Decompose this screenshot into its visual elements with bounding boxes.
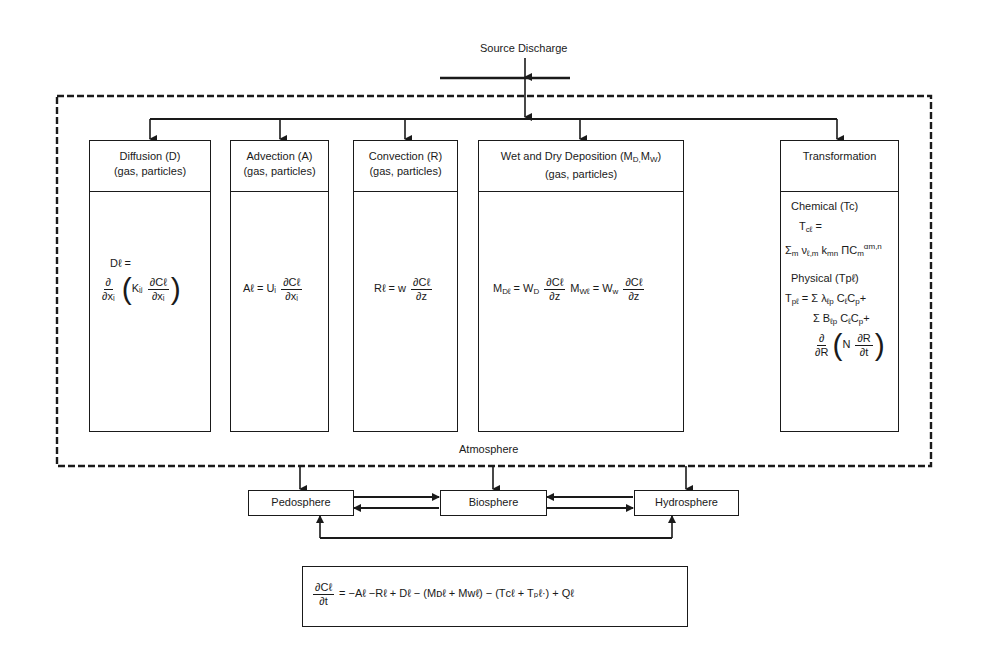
source-discharge-label: Source Discharge [480,42,567,54]
process-box-transformation: Transformation Chemical (Tc) Tcℓ = Σm νℓ… [780,140,899,432]
process-box-convection: Convection (R) (gas, particles) Rℓ = w ∂… [353,140,458,432]
physical-line-1: Tpℓ = Σ λℓp CℓCp+ [785,292,866,306]
process-title: Wet and Dry Deposition (MD,MW) [479,149,683,167]
process-box-advection: Advection (A) (gas, particles) Aℓ = Uᵢ ∂… [230,140,329,432]
process-title: Diffusion (D) [90,149,210,164]
process-title: Advection (A) [231,149,328,164]
fraction-denominator: ∂z [626,290,641,303]
process-title: Transformation [781,149,898,164]
process-header: Advection (A) (gas, particles) [231,141,328,192]
chemical-lhs: Tcℓ = [799,220,822,234]
chemical-rhs: Σm νℓ,m kmn ΠCmαm,n [785,242,882,258]
process-box-deposition: Wet and Dry Deposition (MD,MW) (gas, par… [478,140,684,432]
process-subtitle: (gas, particles) [354,164,457,179]
atmosphere-label: Atmosphere [459,443,518,455]
fraction-numerator: ∂Cℓ [148,276,169,290]
physical-line-3: ∂∂R(N ∂R∂t) [811,330,885,360]
fraction-denominator: ∂xᵢ [100,290,117,303]
fraction-numerator: ∂Cℓ [623,276,644,290]
process-header: Wet and Dry Deposition (MD,MW) (gas, par… [479,141,683,192]
fraction-numerator: ∂Cℓ [313,581,334,595]
sphere-box-biosphere: Biosphere [440,490,547,516]
sphere-box-pedosphere: Pedosphere [248,490,354,516]
process-subtitle: (gas, particles) [90,164,210,179]
process-box-diffusion: Diffusion (D) (gas, particles) Dℓ = ∂∂xᵢ… [89,140,211,432]
process-header: Diffusion (D) (gas, particles) [90,141,210,192]
fraction-numerator: ∂Cℓ [281,276,302,290]
process-subtitle: (gas, particles) [231,164,328,179]
chemical-label: Chemical (Tc) [791,200,858,212]
fraction-numerator: ∂Cℓ [544,276,565,290]
physical-label: Physical (Tpℓ) [791,272,859,284]
process-equation: Rℓ = w ∂Cℓ∂z [354,192,457,431]
process-header: Transformation [781,141,898,192]
physical-line-2: Σ Bℓp CℓCp+ [813,312,870,326]
process-title: Convection (R) [354,149,457,164]
process-subtitle: (gas, particles) [479,167,683,182]
sphere-box-hydrosphere: Hydrosphere [634,490,739,516]
diffusion-coefficient: Kᵢⱼ [132,282,143,294]
fraction-numerator: ∂ [104,276,113,290]
equation-lhs: Aℓ = Uᵢ [243,282,276,294]
process-equation: Aℓ = Uᵢ ∂Cℓ∂xᵢ [231,192,328,431]
fraction-numerator: ∂Cℓ [411,276,432,290]
process-header: Convection (R) (gas, particles) [354,141,457,192]
dry-deposition-lhs: M [493,282,502,294]
wet-deposition-lhs: M [570,282,579,294]
fraction-denominator: ∂z [414,290,429,303]
fraction-denominator: ∂z [547,290,562,303]
master-equation-box: ∂Cℓ∂t = −Aℓ −Rℓ + Dℓ − (Mᴅℓ + Mᴡℓ) − (Tᴄ… [302,566,688,627]
process-equation: MDℓ = WD ∂Cℓ∂z MWℓ = Ww ∂Cℓ∂z [479,192,683,431]
transformation-equations: Chemical (Tc) Tcℓ = Σm νℓ,m kmn ΠCmαm,n … [781,192,898,431]
equation-lhs: Rℓ = w [374,282,406,294]
fraction-denominator: ∂xᵢ [283,290,300,303]
equation-lhs: Dℓ = [110,257,131,269]
fraction-denominator: ∂xᵢ [150,290,167,303]
process-equation: Dℓ = ∂∂xᵢ (Kᵢⱼ ∂Cℓ∂xᵢ) [90,192,210,431]
fraction-denominator: ∂t [317,595,330,608]
master-equation-rhs: = −Aℓ −Rℓ + Dℓ − (Mᴅℓ + Mᴡℓ) − (Tᴄℓ + Tₚ… [339,587,574,599]
